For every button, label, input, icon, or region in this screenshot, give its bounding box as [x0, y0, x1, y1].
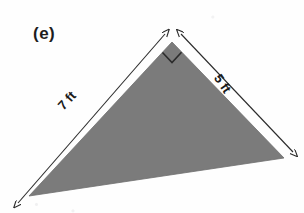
- figure-canvas: (e) 7 ft 5 ft: [0, 0, 304, 213]
- triangle-shape: [29, 42, 284, 196]
- part-label: (e): [33, 24, 55, 44]
